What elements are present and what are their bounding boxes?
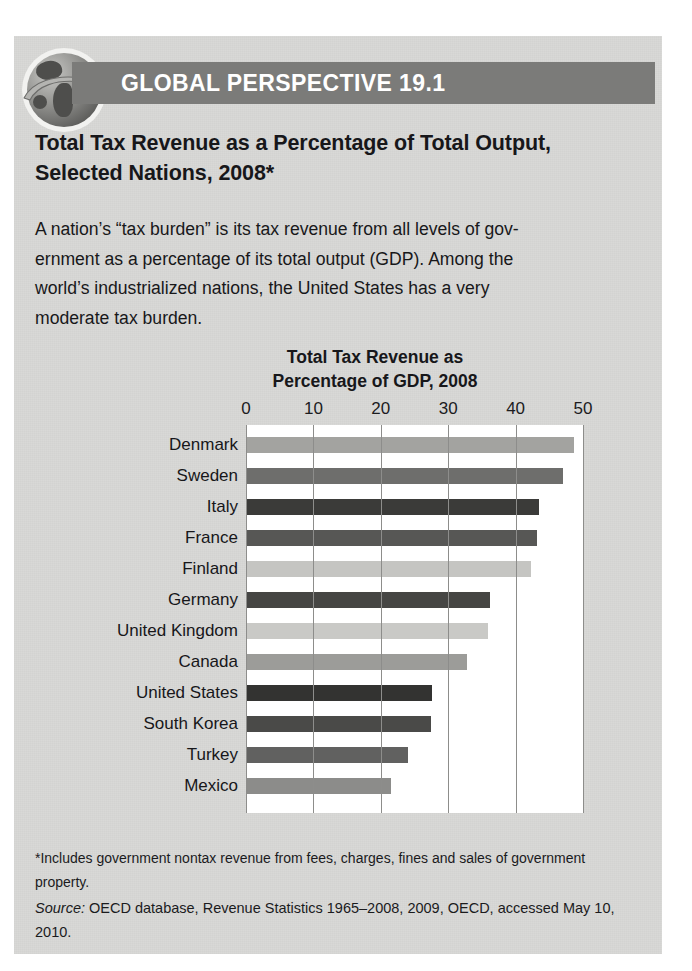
bar-row: France	[246, 522, 583, 553]
x-tick-label: 10	[304, 399, 323, 419]
source-note: Source: OECD database, Revenue Statistic…	[35, 896, 635, 944]
bar-row: South Korea	[246, 708, 583, 739]
bar	[246, 747, 408, 763]
chart-title: Total Tax Revenue as Percentage of GDP, …	[185, 345, 565, 393]
bar	[246, 716, 431, 732]
bar	[246, 437, 574, 453]
bar-row: Germany	[246, 584, 583, 615]
category-label: Germany	[168, 590, 238, 610]
gridline	[381, 425, 382, 813]
bar-row: Finland	[246, 553, 583, 584]
bar-row: United States	[246, 677, 583, 708]
page-title: Total Tax Revenue as a Percentage of Tot…	[35, 128, 595, 188]
gridline	[516, 425, 517, 813]
body-line: A nation’s “tax burden” is its tax reven…	[35, 215, 607, 245]
chart-title-line-2: Percentage of GDP, 2008	[185, 369, 565, 393]
x-tick-label: 40	[506, 399, 525, 419]
bar	[246, 685, 432, 701]
bar-row: United Kingdom	[246, 615, 583, 646]
bar	[246, 623, 488, 639]
bar-row: Denmark	[246, 429, 583, 460]
x-tick-label: 50	[574, 399, 593, 419]
header-band: GLOBAL PERSPECTIVE 19.1	[72, 62, 655, 104]
footnote: *Includes government nontax revenue from…	[35, 846, 625, 894]
plot-area: DenmarkSwedenItalyFranceFinlandGermanyUn…	[246, 425, 584, 813]
bar-row: Sweden	[246, 460, 583, 491]
category-label: Turkey	[187, 745, 238, 765]
gridline	[246, 425, 247, 813]
gridline	[313, 425, 314, 813]
body-paragraph: A nation’s “tax burden” is its tax reven…	[35, 215, 607, 333]
x-tick-label: 30	[439, 399, 458, 419]
category-label: Sweden	[177, 466, 238, 486]
gridline	[448, 425, 449, 813]
category-label: Italy	[207, 497, 238, 517]
figure-page: GLOBAL PERSPECTIVE 19.1 Total Tax Revenu…	[0, 0, 692, 971]
category-label: United States	[136, 683, 238, 703]
bar-rows: DenmarkSwedenItalyFranceFinlandGermanyUn…	[246, 425, 583, 813]
category-label: South Korea	[143, 714, 238, 734]
body-line: moderate tax burden.	[35, 304, 607, 334]
category-label: United Kingdom	[117, 621, 238, 641]
category-label: Canada	[178, 652, 238, 672]
chart-title-line-1: Total Tax Revenue as	[185, 345, 565, 369]
bar	[246, 561, 531, 577]
bar	[246, 499, 539, 515]
bar	[246, 778, 391, 794]
bar	[246, 654, 467, 670]
body-line: ernment as a percentage of its total out…	[35, 245, 607, 275]
header-band-title: GLOBAL PERSPECTIVE 19.1	[121, 70, 445, 97]
source-label: Source:	[35, 900, 85, 916]
source-text: OECD database, Revenue Statistics 1965–2…	[35, 900, 615, 940]
bar	[246, 592, 490, 608]
body-line: world’s industrialized nations, the Unit…	[35, 274, 607, 304]
bar-row: Mexico	[246, 770, 583, 801]
category-label: France	[185, 528, 238, 548]
bar-chart: Total Tax Revenue as Percentage of GDP, …	[35, 345, 615, 835]
bar-row: Italy	[246, 491, 583, 522]
bar	[246, 530, 537, 546]
category-label: Mexico	[184, 776, 238, 796]
x-tick-label: 20	[371, 399, 390, 419]
x-tick-label: 0	[241, 399, 250, 419]
category-label: Finland	[182, 559, 238, 579]
bar-row: Canada	[246, 646, 583, 677]
x-axis-tick-labels: 01020304050	[35, 399, 615, 421]
category-label: Denmark	[169, 435, 238, 455]
bar-row: Turkey	[246, 739, 583, 770]
